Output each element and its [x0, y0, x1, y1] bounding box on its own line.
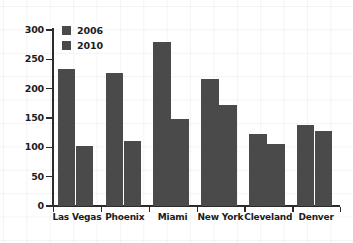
y-axis-tick-label: 250 [4, 54, 44, 64]
bar [267, 144, 285, 206]
y-axis-tick-label: 300 [4, 25, 44, 35]
x-axis-tick [101, 207, 102, 212]
y-axis-tick-label: 100 [4, 142, 44, 152]
x-axis-category-label: Denver [284, 213, 348, 222]
y-axis-tick-label: 150 [4, 113, 44, 123]
y-axis-tick [46, 205, 52, 206]
bar-chart: 050100150200250300 Las VegasPhoenixMiami… [0, 0, 353, 243]
plot-area [53, 30, 340, 206]
legend-label-2010: 2010 [77, 41, 103, 51]
bar [106, 73, 124, 206]
x-axis-tick [149, 207, 150, 212]
bar [249, 134, 267, 206]
bar [315, 131, 333, 206]
x-axis-tick [340, 207, 341, 212]
legend-entry: 2006 [62, 24, 103, 37]
y-axis-tick [46, 147, 52, 148]
bar [171, 119, 189, 206]
y-axis-tick-label: 0 [4, 201, 44, 211]
y-axis-tick [46, 59, 52, 60]
bar [76, 146, 94, 206]
y-axis-tick [46, 117, 52, 118]
y-axis-tick [46, 176, 52, 177]
legend-swatch-2010 [62, 41, 71, 50]
bar [58, 69, 76, 206]
bar [201, 79, 219, 206]
bar [219, 105, 237, 206]
bar [297, 125, 315, 206]
y-axis-tick-label: 50 [4, 172, 44, 182]
y-axis-tick-label: 200 [4, 84, 44, 94]
legend-swatch-2006 [62, 26, 71, 35]
y-axis-tick [46, 29, 52, 30]
bar [153, 42, 171, 206]
legend-label-2006: 2006 [77, 26, 103, 36]
x-axis-tick [292, 207, 293, 212]
bar [124, 141, 142, 206]
legend: 2006 2010 [62, 24, 103, 54]
legend-entry: 2010 [62, 39, 103, 52]
y-axis-tick [46, 88, 52, 89]
